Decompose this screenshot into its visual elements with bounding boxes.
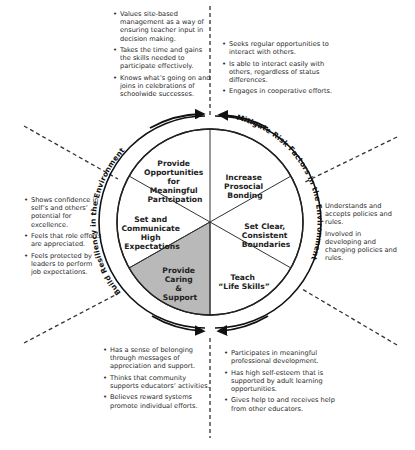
dashed-line-upper-right <box>303 137 397 183</box>
segment-boundaries: Set Clear, Consistent Boundaries <box>242 222 291 249</box>
segment-bonding: Increase Prosocial Bonding <box>224 173 266 200</box>
resiliency-wheel: Provide Opportunities for Meaningful Par… <box>0 0 415 450</box>
dashed-line-lower-right <box>302 289 397 345</box>
dashed-line-lower-left <box>24 294 117 343</box>
